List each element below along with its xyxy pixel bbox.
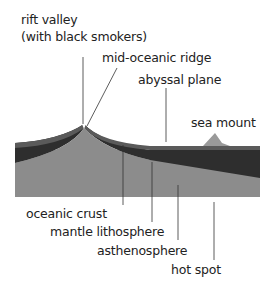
ridge-upwelling: [15, 128, 150, 197]
sea-mount-label: sea mount: [191, 115, 256, 130]
rift-valley-sublabel: (with black smokers): [21, 29, 147, 44]
rift-valley-label: rift valley: [21, 12, 78, 27]
sea-mount-shape: [203, 133, 230, 146]
oceanic-crust-label: oceanic crust: [26, 206, 107, 221]
mid-oceanic-ridge-label: mid-oceanic ridge: [102, 50, 211, 65]
ridge-leader: [87, 68, 117, 126]
mantle-lithosphere-label: mantle lithosphere: [50, 224, 164, 239]
abyssal-plane-label: abyssal plane: [138, 72, 221, 87]
hot-spot-label: hot spot: [171, 262, 221, 277]
asthenosphere-label: asthenosphere: [97, 243, 187, 258]
